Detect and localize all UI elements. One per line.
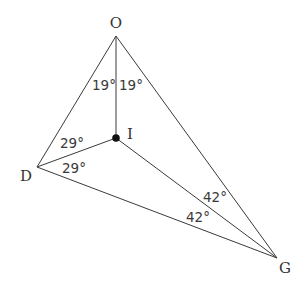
vertex-label-G: G — [279, 259, 291, 277]
incenter-label-I: I — [127, 125, 133, 143]
angle-label-O-right: 19° — [119, 77, 143, 93]
triangle-diagram: O D G I 19° 19° 29° 29° 42° 42° — [0, 0, 302, 292]
angle-label-G-upper: 42° — [203, 189, 227, 205]
bisector-GI — [116, 138, 277, 258]
angle-label-D-upper: 29° — [60, 135, 84, 151]
vertex-label-O: O — [110, 14, 122, 32]
angle-label-D-lower: 29° — [62, 160, 86, 176]
side-DG — [37, 167, 277, 258]
angle-label-O-left: 19° — [92, 77, 116, 93]
angle-label-G-lower: 42° — [186, 209, 210, 225]
incenter-point — [112, 134, 120, 142]
vertex-label-D: D — [20, 167, 32, 185]
